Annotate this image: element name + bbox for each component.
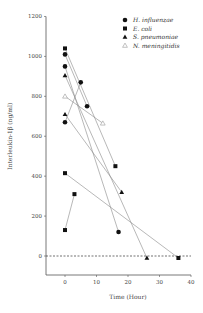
y-axis-label: Interleukin-1β (ng/ml) [6, 103, 14, 170]
data-connector-line [65, 194, 74, 230]
data-point-marker [63, 228, 67, 232]
y-tick-label: 1000 [28, 53, 42, 59]
legend-label: N. meningitidis [132, 42, 180, 50]
data-point-marker [85, 104, 90, 109]
interleukin-chart: 020040060080010001200010203040Time (Hour… [0, 0, 203, 313]
y-tick-label: 0 [39, 253, 43, 259]
data-point-marker [116, 230, 121, 235]
data-point-marker [176, 256, 180, 260]
legend-marker-icon [123, 18, 128, 23]
data-point-marker [63, 46, 67, 50]
data-point-marker [63, 94, 68, 98]
x-tick-label: 40 [188, 279, 195, 285]
y-tick-label: 800 [32, 93, 43, 99]
x-tick-label: 0 [63, 279, 67, 285]
data-point-marker [63, 64, 68, 69]
data-point-marker [100, 121, 105, 125]
y-tick-label: 1200 [28, 13, 42, 19]
legend-label: H. influenzae [132, 16, 174, 24]
legend-marker-icon [123, 43, 128, 47]
x-tick-label: 10 [93, 279, 100, 285]
data-point-marker [63, 171, 67, 175]
y-tick-label: 400 [32, 173, 43, 179]
legend-label: E. coli [132, 25, 152, 32]
data-point-marker [72, 192, 76, 196]
plot-area: 020040060080010001200010203040Time (Hour… [0, 0, 203, 313]
legend-marker-icon [123, 35, 128, 39]
x-tick-label: 20 [125, 279, 132, 285]
data-point-marker [63, 120, 68, 125]
data-connector-line [65, 96, 103, 123]
y-tick-label: 600 [32, 133, 43, 139]
data-point-marker [119, 190, 124, 194]
data-connector-line [65, 75, 147, 258]
data-point-marker [113, 164, 117, 168]
legend-label: S. pneumoniae [133, 33, 178, 41]
data-point-marker [63, 52, 68, 57]
data-point-marker [63, 112, 68, 116]
y-tick-label: 200 [32, 213, 43, 219]
data-point-marker [63, 73, 68, 77]
x-tick-label: 30 [156, 279, 163, 285]
data-connector-line [65, 173, 178, 258]
legend-marker-icon [123, 27, 127, 31]
data-connector-line [65, 82, 81, 122]
data-point-marker [78, 80, 83, 85]
x-axis-label: Time (Hour) [109, 293, 146, 300]
data-connector-line [65, 114, 122, 192]
